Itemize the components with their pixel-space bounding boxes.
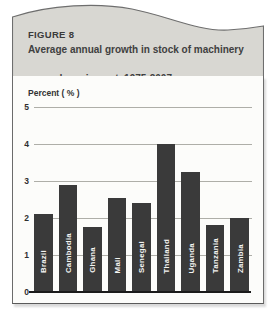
x-axis-baseline [29, 291, 251, 294]
bar-label-ghana: Ghana [88, 247, 97, 273]
bar-senegal: Senegal [132, 203, 151, 292]
bar-label-senegal: Senegal [137, 241, 146, 273]
bar-label-zambia: Zambia [235, 244, 244, 273]
bar-ghana: Ghana [83, 227, 102, 292]
y-axis-tick-label-0: 0 [12, 287, 29, 297]
bar-label-thailand: Thailand [162, 239, 171, 273]
bar-zambia: Zambia [230, 218, 249, 292]
y-axis-tick-label-1: 1 [12, 250, 29, 260]
bar-tanzania: Tanzania [206, 225, 225, 292]
y-axis-tick-label-4: 4 [12, 139, 29, 149]
bar-brazil: Brazil [34, 214, 53, 292]
bar-thailand: Thailand [157, 144, 176, 292]
y-axis-unit-label: Percent ( % ) [28, 88, 80, 98]
bar-label-mali: Mali [112, 257, 121, 273]
bar-uganda: Uganda [181, 172, 200, 292]
page: FIGURE 8 Average annual growth in stock … [0, 0, 276, 311]
figure-box: FIGURE 8 Average annual growth in stock … [12, 0, 264, 304]
y-axis-tick-label-3: 3 [12, 176, 29, 186]
y-axis-tick-label-5: 5 [12, 102, 29, 112]
gridline-y-5 [34, 107, 252, 108]
gridline-y-3 [34, 181, 252, 182]
figure-title-line1: Average annual growth in stock of machin… [28, 44, 244, 55]
bar-label-brazil: Brazil [39, 250, 48, 273]
bar-mali: Mali [108, 198, 127, 292]
bar-label-tanzania: Tanzania [211, 238, 220, 273]
bar-label-uganda: Uganda [186, 243, 195, 273]
y-axis-tick-label-2: 2 [12, 213, 29, 223]
bar-cambodia: Cambodia [59, 185, 78, 292]
figure-number-label: FIGURE 8 [28, 29, 74, 40]
gridline-y-4 [34, 144, 252, 145]
bar-label-cambodia: Cambodia [63, 233, 72, 273]
